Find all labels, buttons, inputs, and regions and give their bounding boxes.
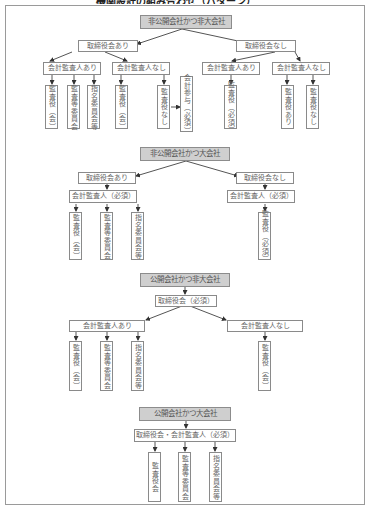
node-auditor-no: 会計監査人なし bbox=[227, 320, 303, 332]
node-board-yes: 取締役会あり bbox=[78, 40, 138, 52]
node-head: 非公開会社かつ大会社 bbox=[140, 147, 230, 161]
leaf-node: 監査等委員会 bbox=[67, 85, 80, 129]
node-board-yes: 取締役会あり bbox=[78, 172, 136, 184]
node-auditor-yes: 会計監査人あり bbox=[202, 62, 260, 75]
node-auditor-required: 会計監査人（必須） bbox=[227, 190, 295, 203]
leaf-node: 指名委員会等 bbox=[131, 341, 144, 391]
node-head: 非公開会社かつ非大会社 bbox=[140, 15, 232, 29]
leaf-node: 監査役会 bbox=[148, 452, 161, 502]
diagram-title: 機関設計の組み合わせ（パターン） bbox=[0, 0, 372, 4]
leaf-node: 指名委員会等 bbox=[87, 85, 100, 129]
leaf-node: 指名委員会等 bbox=[131, 212, 144, 260]
leaf-node: 監査等委員会 bbox=[100, 341, 113, 391]
node-auditor-no: 会計監査人なし bbox=[112, 62, 170, 75]
node-auditor-no: 会計監査人なし bbox=[272, 62, 330, 75]
leaf-node: 監査役（会） bbox=[258, 341, 271, 391]
leaf-node: 監査役なし bbox=[306, 85, 319, 129]
node-board-no: 取締役会なし bbox=[236, 40, 296, 52]
node-board-auditor-required: 取締役会・会計監査人（必須） bbox=[134, 429, 236, 442]
leaf-node: 監査役なし bbox=[157, 85, 170, 129]
leaf-node: 監査役あり bbox=[281, 85, 294, 129]
leaf-node: 監査役（必須） bbox=[224, 85, 237, 129]
node-board-required: 取締役会（必須） bbox=[155, 295, 217, 307]
leaf-node: 監査等委員会 bbox=[100, 212, 113, 260]
leaf-node: 監査役（会） bbox=[69, 341, 82, 391]
leaf-node: 監査役（会） bbox=[45, 85, 58, 129]
node-auditor-yes: 会計監査人あり bbox=[43, 62, 101, 75]
leaf-node: 監査役（会） bbox=[69, 212, 82, 260]
node-board-no: 取締役会なし bbox=[236, 172, 294, 184]
leaf-node: 監査役（会） bbox=[115, 85, 128, 129]
leaf-node: 会計参与（必須） bbox=[180, 76, 193, 132]
node-auditor-required: 会計監査人（必須） bbox=[69, 190, 137, 203]
leaf-node: 監査等委員会 bbox=[178, 452, 191, 502]
node-head: 公開会社かつ大会社 bbox=[139, 407, 231, 421]
node-auditor-yes: 会計監査人あり bbox=[69, 320, 145, 332]
leaf-node: 指名委員会等 bbox=[209, 452, 222, 502]
node-head: 公開会社かつ非大会社 bbox=[140, 273, 230, 287]
leaf-node: 監査役（必須） bbox=[258, 212, 271, 260]
